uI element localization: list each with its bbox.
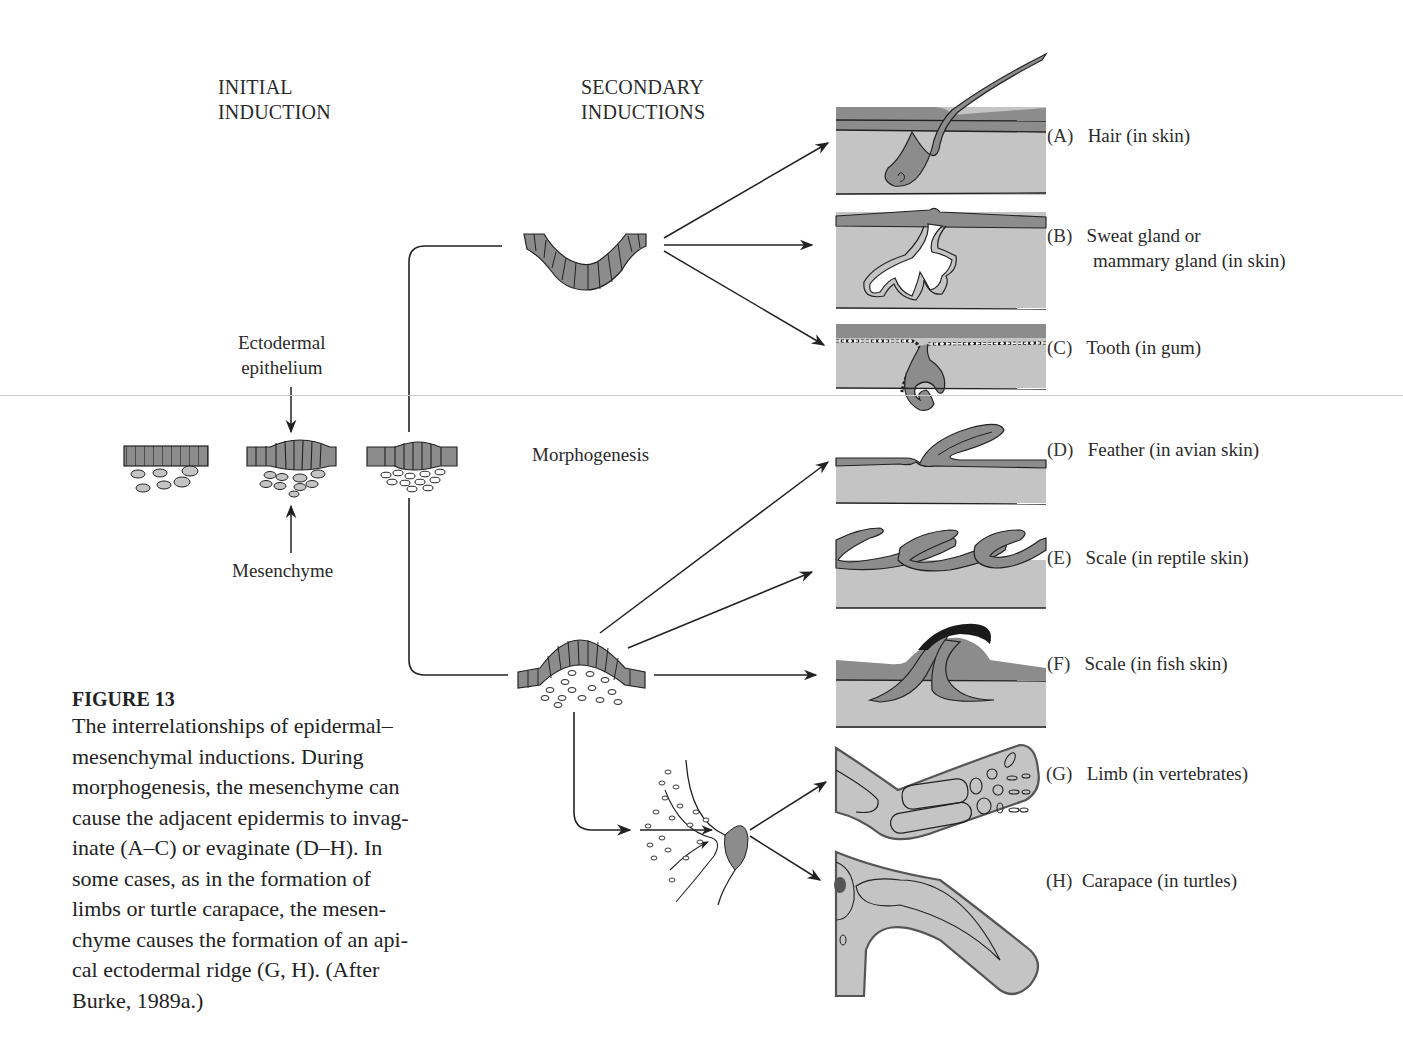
panel-e-label: (E) Scale (in reptile skin) <box>1047 545 1249 570</box>
connector-evagination <box>409 498 508 675</box>
panel-g-label: (G) Limb (in vertebrates) <box>1046 761 1248 786</box>
panel-f-fish-scale-drawing <box>836 624 1046 728</box>
panel-c-tooth-drawing <box>836 324 1046 410</box>
stage-1-flat-epithelium <box>124 446 208 492</box>
panel-h-carapace-drawing <box>834 852 1038 996</box>
panel-f-label: (F) Scale (in fish skin) <box>1047 651 1228 676</box>
panel-c-label: (C) Tooth (in gum) <box>1047 335 1201 360</box>
panel-b-gland-drawing <box>836 208 1046 309</box>
panel-e-reptile-scale-drawing <box>836 528 1046 608</box>
stage-3-condensed-mesenchyme <box>367 442 457 492</box>
stage-2-thickened-epithelium <box>247 440 336 497</box>
panel-a-label: (A) Hair (in skin) <box>1047 123 1190 148</box>
connector-invagination <box>409 246 502 432</box>
mesenchyme-label: Mesenchyme <box>232 558 333 583</box>
evaginating-epithelium <box>518 640 645 708</box>
header-initial-induction: INITIAL INDUCTION <box>218 75 331 125</box>
panel-d-label: (D) Feather (in avian skin) <box>1047 437 1259 462</box>
panel-d-feather-drawing <box>836 424 1046 504</box>
scan-artifact-line <box>0 395 1403 396</box>
panel-g-limb-drawing <box>836 745 1039 839</box>
panel-a-hair-drawing <box>836 54 1046 195</box>
morphogenesis-label: Morphogenesis <box>532 442 649 467</box>
apical-ridge <box>640 760 748 905</box>
caption-title: FIGURE 13 <box>72 688 472 711</box>
panel-b-label-line2: mammary gland (in skin) <box>1093 248 1286 273</box>
invaginating-epithelium <box>524 234 646 290</box>
caption-body: The interrelationships of epidermal– mes… <box>72 711 472 1016</box>
connector-ridge <box>574 712 630 830</box>
panel-b-label: (B) Sweat gland or <box>1047 223 1201 248</box>
ectodermal-epithelium-label: Ectodermal epithelium <box>238 330 326 380</box>
header-secondary-inductions: SECONDARY INDUCTIONS <box>581 75 705 125</box>
panel-h-label: (H) Carapace (in turtles) <box>1046 868 1237 893</box>
figure-caption: FIGURE 13 The interrelationships of epid… <box>72 688 472 1016</box>
